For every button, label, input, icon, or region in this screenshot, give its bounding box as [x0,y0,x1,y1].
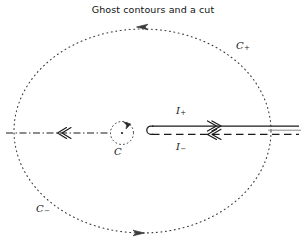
label-cut-i-minus: I− [176,141,186,153]
small-circle-arrow [124,122,131,129]
label-i-plus-subscript: + [180,109,186,117]
label-i-minus-subscript: − [180,145,186,153]
label-c-symbol: C [114,146,122,157]
pole-marker [121,132,123,134]
label-cut-i-plus: I+ [176,105,186,117]
label-contour-c: C [114,146,122,158]
branch-point-cap [147,126,153,134]
label-contour-c-minus: C− [36,203,50,215]
outer-ellipse-contour [14,29,271,233]
label-c-minus-symbol: C [36,203,44,214]
label-c-plus-symbol: C [236,40,244,51]
label-contour-c-plus: C+ [236,40,250,52]
label-c-plus-subscript: + [244,44,250,52]
figure-canvas: Ghost contours and a cut [0,0,306,247]
label-c-minus-subscript: − [44,207,50,215]
